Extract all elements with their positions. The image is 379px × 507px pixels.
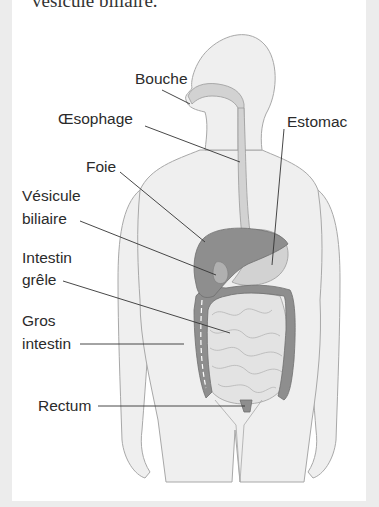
label-oesophage: Œsophage: [58, 107, 133, 130]
label-gros-intestin-line2: intestin: [22, 332, 71, 355]
label-estomac: Estomac: [287, 110, 347, 133]
label-rectum: Rectum: [38, 394, 91, 417]
label-vesicule-line2: biliaire: [22, 207, 67, 230]
label-gros-intestin-line1: Gros: [22, 309, 56, 332]
label-bouche: Bouche: [135, 67, 188, 90]
label-foie: Foie: [86, 155, 116, 178]
label-intestin-grele-line1: Intestin: [22, 246, 72, 269]
label-vesicule-line1: Vésicule: [22, 184, 81, 207]
label-intestin-grele-line2: grêle: [22, 268, 56, 291]
